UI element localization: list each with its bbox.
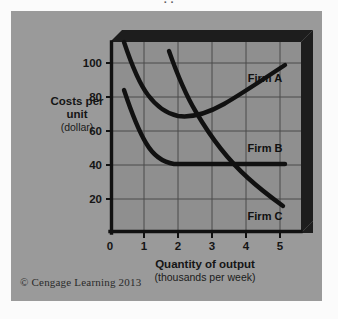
series-label-firm-a: Firm A (248, 72, 282, 84)
y-tick-label-20: 20 (89, 193, 102, 205)
plot-area (110, 42, 301, 233)
series-label-firm-b: Firm B (248, 142, 283, 154)
chart-svg: 100 80 60 40 20 0 1 2 3 4 5 Costs per un… (0, 0, 338, 319)
figure-container: · · (0, 0, 338, 319)
y-tick-label-40: 40 (89, 159, 102, 171)
x-tick-label-5: 5 (277, 240, 284, 252)
x-axis-title: Quantity of output (155, 258, 255, 270)
series-label-firm-c: Firm C (248, 210, 283, 222)
x-tick-label-4: 4 (243, 240, 250, 252)
copyright-notice: © Cengage Learning 2013 (20, 276, 141, 288)
y-axis-title-line2: unit (66, 108, 87, 120)
y-axis-title-sub: (dollar) (61, 121, 94, 133)
x-tick-label-3: 3 (209, 240, 215, 252)
x-tick-label-2: 2 (175, 240, 181, 252)
x-tick-label-0: 0 (107, 240, 113, 252)
y-tick-label-100: 100 (83, 57, 102, 69)
x-tick-marks (144, 233, 280, 238)
y-axis-title-line1: Costs per (50, 95, 104, 107)
plot-bevel-top (110, 30, 313, 42)
x-axis-title-sub: (thousands per week) (155, 271, 256, 283)
plot-bevel-right (301, 30, 313, 233)
x-tick-label-1: 1 (141, 240, 148, 252)
